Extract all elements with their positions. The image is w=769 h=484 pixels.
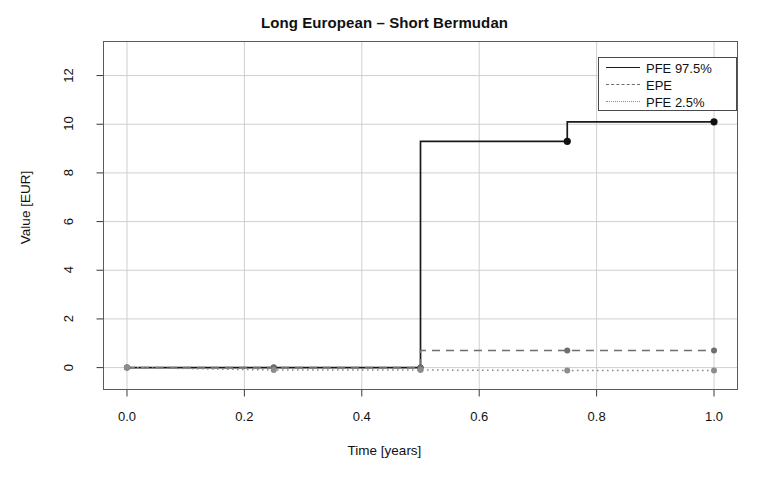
legend-line-dashed-icon [606, 78, 640, 92]
y-tick-label: 0 [61, 347, 76, 387]
y-axis-title: Value [EUR] [18, 138, 33, 278]
legend-line-dotted-icon [606, 95, 640, 109]
legend-item-pfe-25[interactable]: PFE 2.5% [599, 93, 738, 111]
data-point-marker [418, 367, 424, 373]
y-tick-label: 12 [61, 55, 76, 95]
data-point-marker [564, 368, 570, 374]
x-tick-label: 0.4 [337, 409, 387, 424]
legend-label: PFE 2.5% [646, 95, 705, 110]
data-point-marker [124, 365, 130, 371]
x-axis-title: Time [years] [0, 443, 769, 458]
x-tick-label: 0.0 [102, 409, 152, 424]
legend-label: EPE [646, 78, 672, 93]
y-tick-label: 8 [61, 152, 76, 192]
chart-legend[interactable]: PFE 97.5% EPE PFE 2.5% [598, 57, 737, 111]
legend-line-solid-icon [606, 61, 640, 75]
data-point-marker [564, 138, 571, 145]
x-tick-label: 1.0 [689, 409, 739, 424]
data-point-marker [711, 368, 717, 374]
data-point-marker [564, 348, 570, 354]
x-tick-label: 0.8 [572, 409, 622, 424]
y-tick-label: 10 [61, 104, 76, 144]
data-series-layer [124, 118, 718, 373]
y-tick-label: 2 [61, 298, 76, 338]
legend-label: PFE 97.5% [646, 61, 712, 76]
axis-ticks [97, 76, 715, 397]
x-tick-label: 0.6 [454, 409, 504, 424]
x-tick-label: 0.2 [219, 409, 269, 424]
y-tick-label: 6 [61, 201, 76, 241]
legend-item-pfe-975[interactable]: PFE 97.5% [599, 59, 738, 77]
data-point-marker [271, 367, 277, 373]
data-point-marker [711, 348, 717, 354]
data-point-marker [710, 118, 717, 125]
chart-figure: Long European – Short Bermudan Time [yea… [0, 0, 769, 484]
legend-item-epe[interactable]: EPE [599, 76, 738, 94]
y-tick-label: 4 [61, 250, 76, 290]
series-line-0 [127, 122, 714, 368]
